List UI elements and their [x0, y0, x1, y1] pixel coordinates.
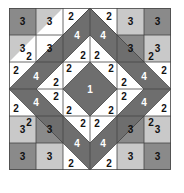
svg-text:3: 3 [155, 124, 161, 135]
svg-text:2: 2 [13, 103, 19, 114]
svg-text:2: 2 [161, 65, 167, 76]
svg-text:2: 2 [108, 105, 114, 116]
svg-text:2: 2 [53, 91, 59, 102]
svg-text:3: 3 [20, 43, 26, 54]
svg-text:2: 2 [80, 50, 86, 61]
svg-text:2: 2 [68, 158, 74, 169]
svg-text:4: 4 [74, 138, 80, 149]
svg-text:3: 3 [128, 16, 134, 27]
label-one: 1 [87, 84, 93, 95]
svg-text:2: 2 [26, 51, 32, 62]
svg-text:4: 4 [33, 71, 39, 82]
svg-text:2: 2 [26, 117, 32, 128]
svg-text:2: 2 [13, 65, 19, 76]
svg-text:2: 2 [106, 158, 112, 169]
svg-text:3: 3 [47, 151, 53, 162]
svg-text:3: 3 [128, 43, 134, 54]
svg-text:3: 3 [128, 124, 134, 135]
svg-text:4: 4 [100, 138, 106, 149]
svg-text:3: 3 [20, 16, 26, 27]
svg-text:2: 2 [66, 105, 72, 116]
svg-text:4: 4 [141, 97, 147, 108]
svg-text:2: 2 [121, 77, 127, 88]
svg-text:3: 3 [47, 16, 53, 27]
svg-text:3: 3 [128, 151, 134, 162]
svg-text:4: 4 [74, 30, 80, 41]
svg-text:3: 3 [47, 124, 53, 135]
svg-text:2: 2 [121, 91, 127, 102]
svg-text:3: 3 [20, 151, 26, 162]
svg-text:2: 2 [94, 118, 100, 129]
svg-text:2: 2 [108, 63, 114, 74]
quilt-diagram: 3 3 3 3 3 3 3 3 3 3 3 3 3 3 3 3 4 4 4 4 … [9, 8, 171, 170]
svg-text:2: 2 [161, 103, 167, 114]
svg-text:2: 2 [148, 51, 154, 62]
svg-text:4: 4 [100, 30, 106, 41]
svg-text:3: 3 [20, 124, 26, 135]
svg-text:3: 3 [47, 43, 53, 54]
svg-text:2: 2 [80, 118, 86, 129]
svg-text:2: 2 [66, 63, 72, 74]
svg-text:2: 2 [106, 11, 112, 22]
svg-text:2: 2 [94, 50, 100, 61]
svg-text:2: 2 [148, 117, 154, 128]
svg-text:2: 2 [68, 11, 74, 22]
svg-text:3: 3 [155, 43, 161, 54]
svg-text:3: 3 [155, 16, 161, 27]
svg-text:3: 3 [155, 151, 161, 162]
svg-text:4: 4 [141, 71, 147, 82]
svg-text:4: 4 [33, 97, 39, 108]
svg-text:2: 2 [53, 77, 59, 88]
